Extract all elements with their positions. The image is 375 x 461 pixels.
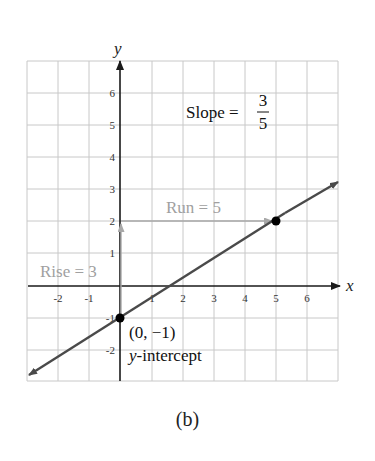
figure-caption: (b) (0, 408, 375, 431)
y-tick: 5 (110, 119, 116, 131)
x-tick: 4 (242, 292, 248, 304)
y-tick: 1 (110, 247, 116, 259)
slope-denominator: 5 (259, 114, 268, 133)
y-tick: 6 (110, 87, 116, 99)
y-tick: -2 (106, 344, 115, 356)
y-tick: 4 (110, 151, 116, 163)
point-5-2 (272, 217, 281, 226)
slope-numerator: 3 (259, 91, 268, 110)
intercept-caption: y-intercept (127, 346, 202, 365)
x-tick: 6 (304, 292, 310, 304)
intercept-point-label: (0, −1) (129, 323, 175, 342)
x-tick: -2 (53, 292, 62, 304)
intercept-caption-rest: -intercept (137, 346, 202, 365)
x-tick: 3 (211, 292, 217, 304)
x-tick: -1 (84, 292, 93, 304)
y-intercept-point (116, 314, 125, 323)
x-tick: 2 (180, 292, 186, 304)
intercept-caption-y: y (127, 346, 137, 365)
slope-graph: x y -2 -1 1 2 3 4 5 6 6 5 4 3 2 1 -1 -2 … (0, 0, 375, 461)
slope-label: Slope = (186, 103, 239, 122)
run-label: Run = 5 (166, 198, 221, 217)
x-tick-labels: -2 -1 1 2 3 4 5 6 (53, 292, 310, 304)
y-tick: 2 (110, 215, 116, 227)
x-axis-label: x (345, 276, 354, 295)
y-tick: 3 (110, 183, 116, 195)
x-tick: 5 (273, 292, 279, 304)
plotted-line (285, 182, 338, 213)
y-axis-label: y (112, 39, 122, 58)
rise-label: Rise = 3 (40, 262, 97, 281)
